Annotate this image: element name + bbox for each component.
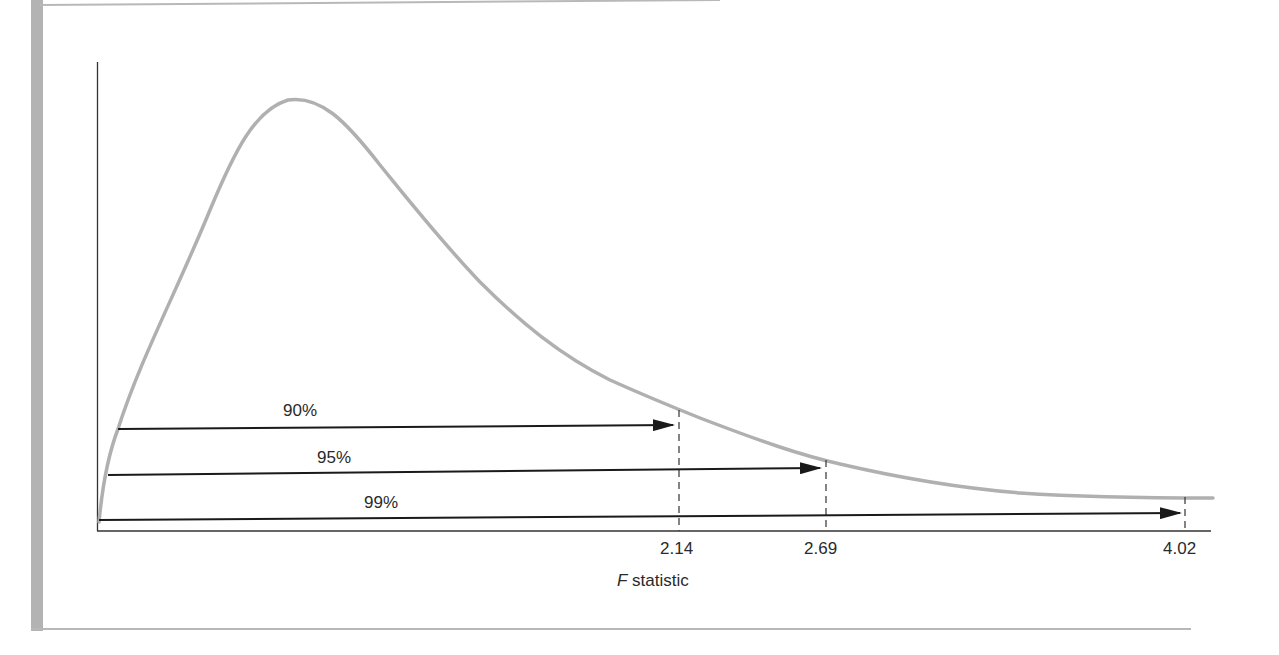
arrow-90 <box>118 425 673 429</box>
f-distribution-chart <box>0 0 1279 655</box>
label-99-percent: 99% <box>364 494 398 511</box>
x-tick-2-14: 2.14 <box>660 540 693 557</box>
arrow-95 <box>108 468 820 475</box>
x-axis-label-italic: F <box>617 571 627 590</box>
x-tick-4-02: 4.02 <box>1163 540 1196 557</box>
label-90-percent: 90% <box>283 402 317 419</box>
x-axis-label: F statistic <box>617 572 689 589</box>
top-rule <box>40 0 720 5</box>
f-distribution-curve <box>99 99 1213 522</box>
label-95-percent: 95% <box>317 449 351 466</box>
x-axis-label-rest: statistic <box>627 571 688 590</box>
arrow-99 <box>99 513 1180 520</box>
x-tick-2-69: 2.69 <box>804 540 837 557</box>
